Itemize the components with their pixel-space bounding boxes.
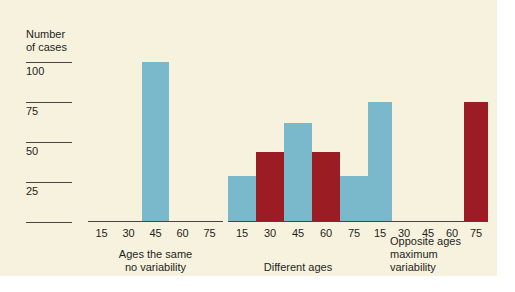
bar-slot (312, 62, 340, 222)
bar-slot (340, 62, 368, 222)
x-axis-tick-labels: 1530456075 (228, 227, 368, 240)
bar-slot (256, 62, 284, 222)
x-axis-line (368, 221, 488, 222)
x-tick-label: 60 (312, 227, 340, 240)
x-tick-label: 15 (368, 227, 392, 240)
bar-slot (284, 62, 312, 222)
bar (228, 176, 256, 222)
x-axis-tick-labels: 1530456075 (88, 227, 223, 240)
plot-area (368, 62, 488, 222)
bar-group-different-ages: 1530456075 Different ages (228, 0, 368, 276)
bar-slot (228, 62, 256, 222)
bar-group-ages-the-same: 1530456075 Ages the same no variability (88, 0, 223, 276)
bar-slot (416, 62, 440, 222)
y-tick-label: 50 (26, 145, 38, 157)
bar-slot (196, 62, 223, 222)
bar-group-opposite-ages: 1530456075 Opposite ages maximum variabi… (368, 0, 488, 276)
y-gridline (26, 62, 72, 63)
panel-caption: Opposite ages maximum variability (390, 235, 515, 274)
bar (340, 176, 368, 222)
bar (142, 62, 169, 222)
x-tick-label: 75 (196, 227, 223, 240)
chart-figure: Number of cases 100 75 50 25 1530456075 … (0, 0, 497, 276)
panel-caption: Different ages (228, 261, 368, 274)
bar-series (88, 62, 223, 222)
bar-series (368, 62, 488, 222)
bar-slot (440, 62, 464, 222)
x-tick-label: 60 (169, 227, 196, 240)
bar-slot (368, 62, 392, 222)
x-tick-label: 45 (142, 227, 169, 240)
x-axis-line (88, 221, 223, 222)
x-tick-label: 15 (88, 227, 115, 240)
x-tick-label: 30 (115, 227, 142, 240)
plot-area (228, 62, 368, 222)
x-tick-label: 30 (256, 227, 284, 240)
x-axis-line (228, 221, 368, 222)
bar-slot (464, 62, 488, 222)
panel-caption: Ages the same no variability (86, 248, 226, 274)
bar-slot (88, 62, 115, 222)
bar (464, 102, 488, 222)
plot-area (88, 62, 223, 222)
bar (256, 152, 284, 222)
x-tick-label: 15 (228, 227, 256, 240)
bar-slot (142, 62, 169, 222)
x-tick-label: 75 (340, 227, 368, 240)
y-gridline (26, 102, 72, 103)
bar (312, 152, 340, 222)
bar-slot (169, 62, 196, 222)
bar (368, 102, 392, 222)
y-tick-label: 75 (26, 105, 38, 117)
y-gridline (26, 222, 72, 223)
y-tick-label: 100 (26, 65, 44, 77)
x-tick-label: 45 (284, 227, 312, 240)
y-gridline (26, 142, 72, 143)
y-tick-label: 25 (26, 185, 38, 197)
bar-slot (392, 62, 416, 222)
bar (284, 123, 312, 222)
bar-slot (115, 62, 142, 222)
bar-series (228, 62, 368, 222)
y-gridline (26, 182, 72, 183)
